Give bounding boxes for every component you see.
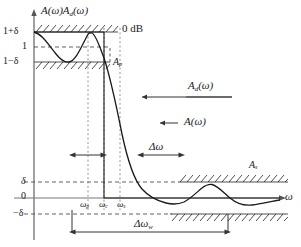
ad-response-label: Ad(ω): [188, 80, 213, 92]
diagram-canvas: [0, 0, 301, 247]
x-axis-label-text: ω: [285, 190, 293, 202]
ideal-response-curve: [34, 32, 280, 198]
y-axis-label-ad-base: A: [63, 4, 70, 16]
x-tick-omega-s-sub: s: [123, 203, 125, 209]
y-axis-label: A(ω)Ad(ω): [41, 5, 88, 17]
zero-db-label: 0 dB: [122, 23, 143, 34]
x-tick-omega-p: ωp: [80, 200, 89, 210]
y-tick-zero: 0: [21, 191, 26, 201]
y-tick-1-plus-delta: 1+δ: [3, 26, 18, 36]
delta-omega-w-sub: w: [148, 223, 153, 230]
y-tick-minus-delta: −δ: [13, 208, 23, 218]
ad-label-tail: (ω): [198, 79, 213, 91]
hatch-stopband-upper-forbidden: [178, 175, 288, 182]
ad-label-base: A: [188, 79, 195, 91]
as-label-sub: s: [255, 163, 257, 170]
a-response-label: A(ω): [184, 116, 206, 127]
x-tick-omega-s: ωs: [117, 200, 126, 210]
actual-response-curve: [34, 32, 280, 205]
x-tick-omega-p-sub: p: [86, 203, 89, 209]
delta-omega-label: Δω: [149, 141, 163, 152]
y-axis-label-a: A(ω): [41, 4, 63, 16]
filter-specification-diagram: A(ω)Ad(ω) 1+δ 1 1−δ δ 0 −δ ωp ωc ωs ω 0 …: [0, 0, 301, 247]
x-tick-omega-c: ωc: [99, 200, 108, 210]
y-tick-delta: δ: [21, 176, 26, 186]
ap-label: Ap: [113, 57, 122, 68]
y-tick-1-minus-delta: 1−δ: [3, 56, 18, 66]
transition-band-measure: [137, 152, 185, 157]
reference-level-lines: [24, 47, 178, 214]
hatch-stopband-lower-forbidden: [170, 214, 288, 221]
y-tick-1: 1: [22, 41, 27, 51]
delta-omega-w-label: Δωw: [134, 218, 153, 230]
hatch-top-forbidden: [34, 25, 118, 32]
x-axis-label: ω: [285, 191, 293, 202]
ap-label-sub: p: [119, 60, 122, 67]
hatch-passband-lower-forbidden: [34, 62, 110, 69]
delta-omega-w-base: Δω: [134, 217, 148, 229]
x-tick-omega-c-sub: c: [105, 203, 107, 209]
as-label: As: [249, 160, 258, 171]
y-axis-label-ad-tail: (ω): [73, 4, 88, 16]
